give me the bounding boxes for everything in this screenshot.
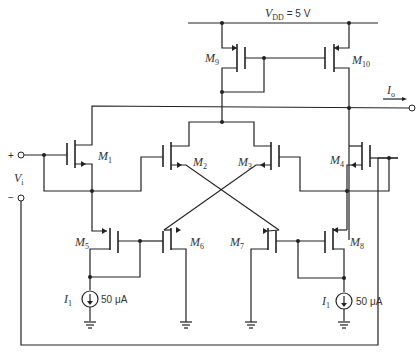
m4-label: M4 xyxy=(329,153,344,169)
vdd-label: VDD = 5 V xyxy=(265,6,311,22)
current-source-right xyxy=(336,278,352,321)
transistor-m5 xyxy=(88,228,163,279)
output-current-label: Io xyxy=(386,83,395,99)
transistor-m6 xyxy=(163,227,186,322)
transistor-m2 xyxy=(163,142,279,230)
m8-label: M8 xyxy=(349,235,364,251)
schematic-svg: VDD = 5 V M9 M10 Io xyxy=(0,0,419,356)
m1-label: M1 xyxy=(97,149,112,165)
i1-left-value: 50 μA xyxy=(101,294,128,305)
m2-label: M2 xyxy=(192,155,207,171)
ground-icon xyxy=(338,322,350,328)
transistor-m10 xyxy=(264,23,349,240)
input-plus: + xyxy=(8,150,14,161)
transistor-m8 xyxy=(298,227,347,280)
transistor-m4 xyxy=(345,142,398,230)
i1-left-label: I1 xyxy=(63,292,72,308)
m9-label: M9 xyxy=(204,51,219,67)
m7-label: M7 xyxy=(229,235,244,251)
ground-icon xyxy=(180,322,192,328)
transistor-m1 xyxy=(24,140,163,230)
m10-label: M10 xyxy=(351,53,370,69)
m5-label: M5 xyxy=(74,235,89,251)
m6-label: M6 xyxy=(189,235,204,251)
i1-right-label: I1 xyxy=(321,294,330,310)
ground-icon xyxy=(245,322,257,328)
input-minus: − xyxy=(8,192,14,203)
transistor-m7 xyxy=(251,228,325,322)
m3-label: M3 xyxy=(237,155,252,171)
input-voltage-label: Vi xyxy=(14,171,24,187)
m2-m3-drain-node xyxy=(189,120,254,145)
circuit-diagram: VDD = 5 V M9 M10 Io xyxy=(0,0,419,356)
current-source-left xyxy=(82,277,98,321)
ground-icon xyxy=(84,322,96,328)
i1-right-value: 50 μA xyxy=(356,296,383,307)
